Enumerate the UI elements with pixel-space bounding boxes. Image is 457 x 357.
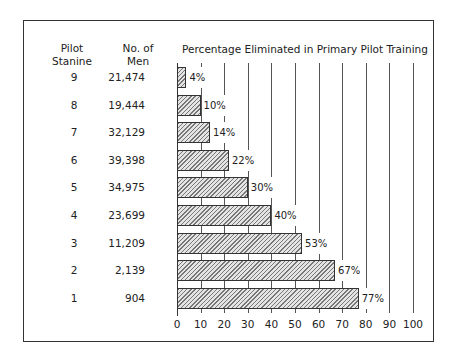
stanine-value: 1 [62,288,86,309]
gridline [389,63,390,313]
bar-value-label: 4% [188,67,206,88]
bar-value-label: 22% [231,150,255,171]
stanine-value: 3 [62,233,86,254]
x-tick-label: 60 [307,318,331,330]
stanine-value: 9 [62,67,86,88]
gridline [413,63,414,313]
stanine-value: 7 [62,122,86,143]
men-count: 19,444 [100,95,145,116]
x-tick-label: 90 [377,318,401,330]
men-count: 23,699 [100,205,145,226]
x-tick-label: 0 [165,318,189,330]
x-tick-label: 100 [401,318,425,330]
stanine-value: 6 [62,150,86,171]
bar [177,95,201,116]
bar-value-label: 10% [203,95,227,116]
stanine-header: Pilot Stanine [42,42,102,68]
bar-value-label: 53% [304,233,328,254]
bar [177,150,229,171]
bar [177,205,271,226]
men-count: 11,209 [100,233,145,254]
x-tick-label: 10 [189,318,213,330]
men-count: 21,474 [100,67,145,88]
men-header: No. of Men [108,42,168,68]
chart-title: Percentage Eliminated in Primary Pilot T… [180,43,430,56]
stanine-value: 5 [62,177,86,198]
bar-value-label: 14% [212,122,236,143]
men-count: 2,139 [100,260,145,281]
bar [177,260,335,281]
bar-value-label: 77% [361,288,385,309]
x-tick-label: 40 [259,318,283,330]
bar-value-label: 67% [337,260,361,281]
bar [177,288,359,309]
bar [177,177,248,198]
bar [177,233,302,254]
men-count: 39,398 [100,150,145,171]
stanine-value: 2 [62,260,86,281]
men-count: 34,975 [100,177,145,198]
stanine-value: 4 [62,205,86,226]
x-tick-label: 20 [212,318,236,330]
stanine-value: 8 [62,95,86,116]
men-count: 904 [100,288,145,309]
x-tick-label: 70 [330,318,354,330]
bar [177,122,210,143]
bar-value-label: 30% [250,177,274,198]
gridline [366,63,367,313]
x-tick-label: 50 [283,318,307,330]
x-tick-label: 80 [354,318,378,330]
x-tick-label: 30 [236,318,260,330]
stanine-header-line1: Pilot [42,42,102,55]
bar [177,67,186,88]
men-count: 32,129 [100,122,145,143]
men-header-line1: No. of [108,42,168,55]
bar-value-label: 40% [273,205,297,226]
